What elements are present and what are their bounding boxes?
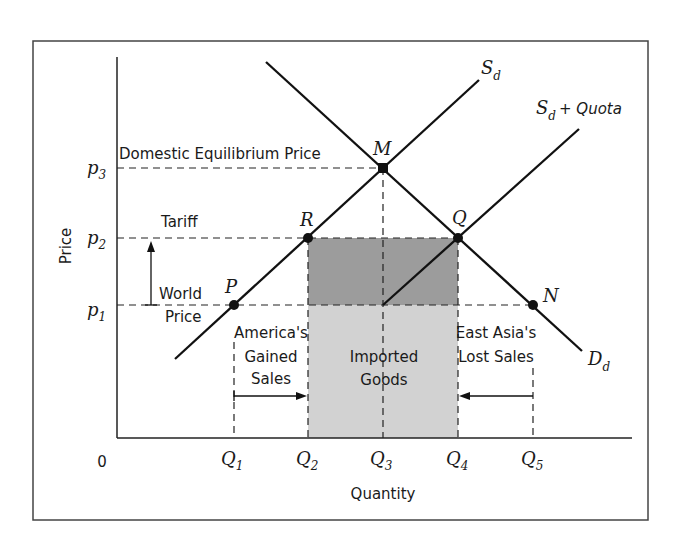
east-asia-label-2: Lost Sales (458, 348, 534, 366)
point-m-marker (378, 163, 388, 173)
tariff-quota-diagram: Price Quantity 0 p3 p2 p1 Q1 Q2 Q3 Q4 Q5… (0, 0, 675, 543)
imported-goods-label-1: Imported (350, 348, 419, 366)
america-label-2: Gained (244, 348, 297, 366)
world-price-label-2: Price (165, 308, 202, 326)
point-r-marker (303, 233, 313, 243)
tariff-label: Tariff (160, 213, 198, 231)
world-price-label-1: World (159, 285, 202, 303)
america-label-3: Sales (251, 370, 291, 388)
point-p-label: P (224, 276, 238, 297)
point-n-marker (528, 300, 538, 310)
domestic-equilibrium-label: Domestic Equilibrium Price (119, 145, 321, 163)
point-r-label: R (299, 209, 314, 230)
point-n-label: N (542, 285, 560, 306)
east-asia-label-1: East Asia's (456, 324, 537, 342)
origin-label: 0 (97, 453, 107, 471)
imported-goods-label-2: Goods (360, 371, 407, 389)
america-label-1: America's (234, 324, 308, 342)
point-q-marker (453, 233, 463, 243)
x-axis-label: Quantity (351, 485, 416, 503)
point-q-label: Q (452, 207, 467, 228)
y-axis-label: Price (57, 228, 75, 265)
point-p-marker (229, 300, 239, 310)
point-m-label: M (372, 138, 392, 159)
